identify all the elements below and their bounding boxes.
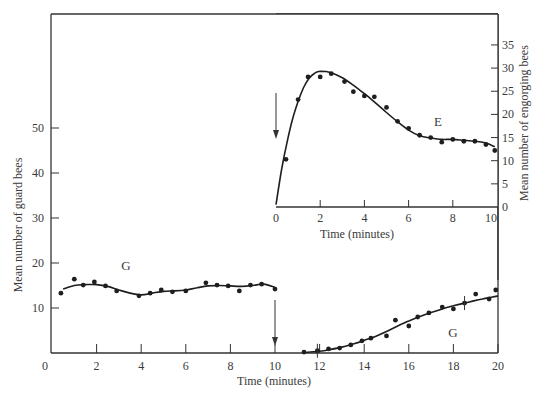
data-point (296, 97, 301, 102)
data-point (428, 135, 433, 140)
data-point (473, 139, 478, 144)
y-tick-label: 50 (32, 121, 44, 135)
data-point (487, 297, 492, 302)
main-series (59, 277, 499, 358)
data-point (183, 289, 188, 294)
y-tick-label: 10 (502, 154, 514, 168)
data-point (342, 79, 347, 84)
data-point (203, 280, 208, 285)
y-tick-label: 10 (32, 301, 44, 315)
data-point (329, 71, 334, 76)
x-tick-label: 2 (317, 211, 323, 225)
series-label-g-after: G (448, 325, 457, 340)
data-point (326, 347, 331, 352)
x-tick-label: 20 (492, 359, 504, 373)
y-tick-label: 15 (502, 131, 514, 145)
data-point (159, 288, 164, 293)
data-point (226, 284, 231, 289)
y-tick-label: 5 (502, 177, 508, 191)
data-point (395, 119, 400, 124)
main-x-ticks: 2468101214161820 (94, 344, 504, 373)
data-point (81, 283, 86, 288)
main-y-axis-label: Mean number of guard bees (11, 157, 25, 292)
data-point (306, 74, 311, 79)
x-tick-label: 2 (94, 359, 100, 373)
data-point (473, 292, 478, 297)
data-point (461, 139, 466, 144)
data-point (348, 343, 353, 348)
fit-curve (304, 296, 498, 353)
data-point (362, 93, 367, 98)
x-tick-label: 8 (450, 211, 456, 225)
main-x-zero-label: 0 (42, 359, 48, 373)
y-tick-label: 30 (502, 61, 514, 75)
data-point (384, 105, 389, 110)
inset-y-axis-label: Mean number of engorging bees (517, 45, 531, 201)
y-tick-label: 30 (32, 211, 44, 225)
data-point (415, 315, 420, 320)
data-point (372, 94, 377, 99)
data-point (417, 133, 422, 138)
inset-x-axis-label: Time (minutes) (320, 227, 394, 241)
x-tick-label: 12 (314, 359, 326, 373)
data-point (237, 289, 242, 294)
data-point (450, 137, 455, 142)
x-tick-label: 4 (361, 211, 367, 225)
arrow-10min-icon (272, 300, 278, 346)
data-point (103, 284, 108, 289)
figure: 2468101214161820 1020304050 0 Time (minu… (0, 0, 546, 400)
inset-plot: 0246810 05101520253035 Time (minutes) Me… (273, 14, 531, 280)
data-point (492, 148, 497, 153)
x-tick-label: 6 (406, 211, 412, 225)
y-tick-label: 20 (32, 256, 44, 270)
data-point (406, 126, 411, 131)
x-tick-label: 16 (403, 359, 415, 373)
data-point (440, 305, 445, 310)
data-point (318, 74, 323, 79)
data-point (406, 324, 411, 329)
data-point (248, 283, 253, 288)
main-x-axis-label: Time (minutes) (237, 374, 311, 388)
data-point (92, 280, 97, 285)
y-tick-label: 35 (502, 38, 514, 52)
y-tick-label: 40 (32, 166, 44, 180)
fit-curve (63, 284, 275, 295)
data-point (351, 89, 356, 94)
x-tick-label: 0 (273, 211, 279, 225)
data-point (284, 157, 289, 162)
data-point (72, 277, 77, 282)
data-point (360, 338, 365, 343)
series-label-g-before: G (121, 258, 130, 273)
data-point (137, 293, 142, 298)
x-tick-label: 8 (227, 359, 233, 373)
data-point (259, 282, 264, 287)
data-point (59, 291, 64, 296)
data-point (384, 334, 389, 339)
y-tick-label: 25 (502, 84, 514, 98)
data-point (493, 288, 498, 293)
x-tick-label: 4 (138, 359, 144, 373)
x-tick-label: 10 (485, 211, 497, 225)
data-point (273, 287, 278, 292)
y-tick-label: 0 (502, 200, 508, 214)
x-tick-label: 14 (358, 359, 370, 373)
data-point (148, 291, 153, 296)
data-point (170, 289, 175, 294)
data-point (302, 350, 307, 355)
chart-svg: 2468101214161820 1020304050 0 Time (minu… (0, 0, 546, 400)
series-label-e: E (434, 114, 442, 129)
y-tick-label: 20 (502, 107, 514, 121)
main-y-ticks: 1020304050 (32, 121, 59, 315)
data-point (114, 289, 119, 294)
data-point (426, 311, 431, 316)
data-point (439, 140, 444, 145)
x-tick-label: 6 (183, 359, 189, 373)
data-point (215, 283, 220, 288)
x-tick-label: 18 (447, 359, 459, 373)
x-tick-label: 10 (269, 359, 281, 373)
data-point (337, 346, 342, 351)
data-point (484, 142, 489, 147)
data-point (393, 318, 398, 323)
data-point (451, 307, 456, 312)
data-point (368, 336, 373, 341)
